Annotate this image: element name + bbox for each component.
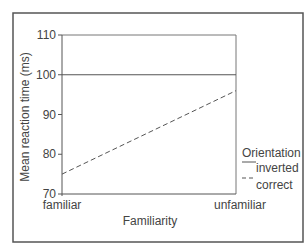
- y-tick-label: 100: [36, 68, 56, 82]
- x-tick-label-familiar: familiar: [43, 198, 82, 212]
- y-tick-label: 80: [43, 147, 57, 161]
- plot-area: [62, 35, 236, 196]
- legend-label-inverted: inverted: [256, 161, 299, 175]
- legend-label-correct: correct: [256, 178, 293, 192]
- legend-title: Orientation: [242, 146, 301, 160]
- y-tick-label: 110: [37, 28, 56, 42]
- series-line-correct: [62, 91, 236, 174]
- series-lines: [62, 75, 236, 174]
- line-chart: 708090100110 familiar unfamiliar Familia…: [0, 0, 308, 250]
- y-ticks: 708090100110: [36, 28, 62, 201]
- y-axis-title: Mean reaction time (ms): [18, 52, 32, 181]
- x-axis-title: Familiarity: [123, 214, 178, 228]
- x-tick-label-unfamiliar: unfamiliar: [214, 198, 266, 212]
- legend: Orientation inverted correct: [242, 146, 301, 192]
- y-tick-label: 90: [43, 108, 57, 122]
